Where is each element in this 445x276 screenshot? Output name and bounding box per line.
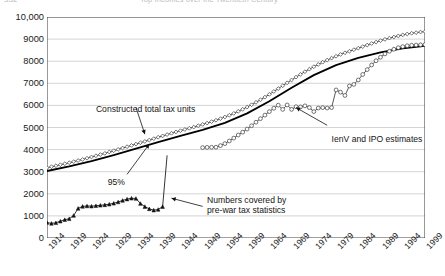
- y-axis-tick-label: 2000: [23, 189, 44, 199]
- chart-series: [47, 30, 425, 170]
- chart-series: [47, 196, 164, 225]
- y-axis-tick-label: 7000: [23, 78, 44, 88]
- x-axis-labels: 1914191919241929193419391944194919541959…: [0, 238, 438, 276]
- annotation-leader-arrow: [296, 108, 327, 126]
- annotation-ienv-ipo-estimates: IenV and IPO estimates: [332, 134, 423, 144]
- cut-off-page-header: 332 Top Incomes over the Twentieth Centu…: [0, 0, 438, 9]
- y-axis-tick-label: 10,000: [16, 12, 44, 22]
- y-axis-tick-label: 9000: [23, 34, 44, 44]
- y-axis-labels: 010002000300040005000600070008000900010,…: [0, 17, 44, 238]
- y-axis-tick-label: 1000: [23, 211, 44, 221]
- annotation-leader-arrow: [172, 197, 203, 206]
- annotation-95-percent: 95%: [108, 177, 125, 187]
- chart-series: [163, 156, 167, 207]
- y-axis-tick-label: 4000: [23, 145, 44, 155]
- y-axis-tick-label: 3000: [23, 167, 44, 177]
- page-number: 332: [4, 0, 17, 4]
- y-axis-tick-label: 5000: [23, 123, 44, 133]
- annotation-constructed-total-tax-units: Constructed total tax units: [96, 104, 195, 114]
- running-title: Top Incomes over the Twentieth Century: [140, 0, 278, 4]
- y-axis-tick-label: 6000: [23, 100, 44, 110]
- annotation-prewar-tax-statistics: Numbers covered by pre-war tax statistic…: [207, 195, 286, 215]
- annotation-prewar-line1: Numbers covered by: [207, 195, 286, 205]
- x-axis-tick-label: 1999: [424, 230, 445, 251]
- y-axis-tick-label: 8000: [23, 56, 44, 66]
- annotation-prewar-line2: pre-war tax statistics: [207, 205, 285, 215]
